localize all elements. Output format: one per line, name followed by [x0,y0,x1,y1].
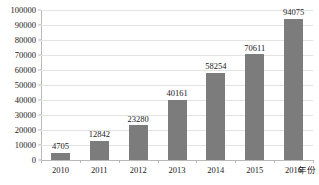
y-axis-tick-label: 80000 [15,36,36,45]
bar: 58254 [206,73,225,160]
y-axis-tick-label: 10000 [15,141,36,150]
y-axis-tick-mark [38,130,41,131]
bar-value-label: 4705 [52,142,69,151]
bar-value-label: 12842 [89,130,110,139]
x-axis-tick-mark [158,160,159,163]
plot-area: 0100002000030000400005000060000700008000… [41,10,313,160]
y-axis-tick-label: 90000 [15,21,36,30]
x-axis-tick-label: 2015 [246,166,263,175]
gridline [41,10,313,11]
bar: 23280 [129,125,148,160]
bar-value-label: 70611 [244,44,265,53]
x-axis-tick-mark [41,160,42,163]
bar-chart: 0100002000030000400005000060000700008000… [0,0,319,185]
y-axis-tick-label: 60000 [15,66,36,75]
y-axis-tick-mark [38,70,41,71]
x-axis-tick-label: 2014 [207,166,224,175]
x-axis-tick-mark [274,160,275,163]
bar: 70611 [245,54,264,160]
gridline [41,70,313,71]
x-axis-tick-label: 2011 [91,166,108,175]
bar-value-label: 58254 [205,62,226,71]
y-axis-tick-mark [38,10,41,11]
bar: 94075 [284,19,303,160]
y-axis-tick-mark [38,85,41,86]
gridline [41,25,313,26]
bar: 40161 [168,100,187,160]
y-axis-tick-label: 20000 [15,126,36,135]
bar: 12842 [90,141,109,160]
bar: 4705 [51,153,70,160]
x-axis-tick-mark [235,160,236,163]
gridline [41,85,313,86]
y-axis-tick-label: 40000 [15,96,36,105]
y-axis-tick-label: 70000 [15,51,36,60]
bar-value-label: 40161 [166,89,187,98]
gridline [41,160,313,161]
y-axis-tick-mark [38,55,41,56]
y-axis-tick-mark [38,145,41,146]
y-axis-tick-mark [38,25,41,26]
x-axis-tick-mark [80,160,81,163]
y-axis-tick-label: 50000 [15,81,36,90]
y-axis-tick-label: 0 [32,156,36,165]
x-axis-tick-mark [119,160,120,163]
x-axis-tick-label: 2012 [130,166,147,175]
x-axis-title: 年份 [298,166,316,175]
bar-value-label: 94075 [283,8,304,17]
bar-value-label: 23280 [128,115,149,124]
x-axis-tick-mark [196,160,197,163]
y-axis-tick-label: 100000 [11,6,37,15]
x-axis-tick-label: 2013 [169,166,186,175]
gridline [41,55,313,56]
x-axis-tick-mark [313,160,314,163]
x-axis-tick-label: 2010 [52,166,69,175]
y-axis-tick-mark [38,40,41,41]
y-axis-tick-mark [38,100,41,101]
y-axis-tick-label: 30000 [15,111,36,120]
gridline [41,40,313,41]
y-axis-tick-mark [38,115,41,116]
